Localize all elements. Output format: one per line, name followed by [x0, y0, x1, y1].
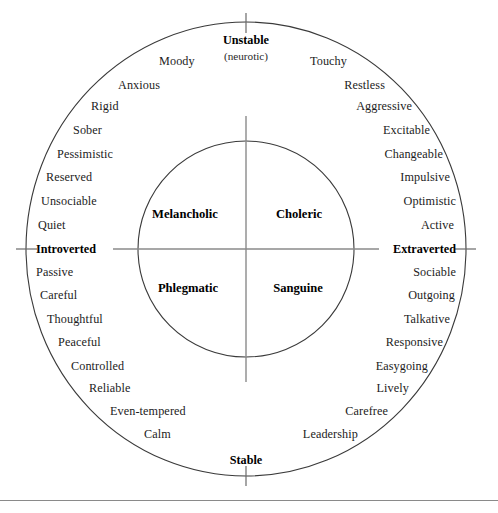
eysenck-personality-circumplex: Unstable (neurotic) Stable Introverted E… — [0, 0, 498, 513]
bottom-divider-rule — [0, 500, 498, 501]
quadrant-label-choleric: Choleric — [276, 208, 322, 221]
trait-label-talkative: Talkative — [404, 313, 450, 325]
trait-label-controlled: Controlled — [71, 360, 124, 372]
trait-label-rigid: Rigid — [91, 100, 119, 112]
trait-label-outgoing: Outgoing — [408, 289, 455, 301]
trait-label-moody: Moody — [159, 55, 195, 67]
trait-label-excitable: Excitable — [383, 124, 430, 136]
trait-label-sober: Sober — [73, 124, 102, 136]
trait-label-even-tempered: Even-tempered — [110, 405, 186, 417]
trait-label-reliable: Reliable — [89, 382, 130, 394]
trait-label-quiet: Quiet — [38, 219, 66, 231]
trait-label-anxious: Anxious — [118, 79, 160, 91]
trait-label-touchy: Touchy — [310, 55, 347, 67]
axis-label-introverted: Introverted — [36, 243, 96, 255]
trait-label-optimistic: Optimistic — [404, 195, 456, 207]
axis-label-stable: Stable — [230, 454, 263, 466]
circumplex-geometry — [0, 0, 498, 513]
axis-label-extraverted: Extraverted — [393, 243, 456, 255]
trait-label-passive: Passive — [36, 266, 73, 278]
trait-label-pessimistic: Pessimistic — [57, 148, 113, 160]
axis-label-unstable: Unstable — [223, 34, 269, 46]
trait-label-careful: Careful — [40, 289, 77, 301]
trait-label-impulsive: Impulsive — [400, 171, 450, 183]
trait-label-leadership: Leadership — [303, 428, 358, 440]
trait-label-sociable: Sociable — [413, 266, 456, 278]
trait-label-lively: Lively — [377, 382, 409, 394]
trait-label-active: Active — [421, 219, 454, 231]
trait-label-calm: Calm — [144, 428, 171, 440]
trait-label-reserved: Reserved — [46, 171, 92, 183]
trait-label-carefree: Carefree — [345, 405, 388, 417]
trait-label-unsociable: Unsociable — [41, 195, 97, 207]
trait-label-aggressive: Aggressive — [356, 100, 412, 112]
trait-label-responsive: Responsive — [386, 336, 443, 348]
axis-sublabel-neurotic: (neurotic) — [224, 51, 268, 62]
quadrant-label-phlegmatic: Phlegmatic — [158, 282, 218, 295]
quadrant-label-melancholic: Melancholic — [152, 208, 218, 221]
trait-label-restless: Restless — [344, 79, 385, 91]
trait-label-thoughtful: Thoughtful — [47, 313, 103, 325]
trait-label-peaceful: Peaceful — [58, 336, 101, 348]
trait-label-changeable: Changeable — [384, 148, 443, 160]
trait-label-easygoing: Easygoing — [376, 360, 428, 372]
quadrant-label-sanguine: Sanguine — [273, 282, 323, 295]
